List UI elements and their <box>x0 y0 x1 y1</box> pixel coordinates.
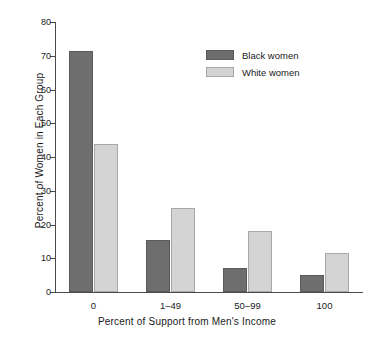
x-axis-tick-label: 50–99 <box>234 300 260 311</box>
y-axis-tick-label: 50 <box>41 118 51 128</box>
bar <box>146 240 170 292</box>
x-axis-tick-label: 1–49 <box>160 300 181 311</box>
bar <box>248 231 272 292</box>
legend-swatch <box>206 67 234 77</box>
legend-entry: Black women <box>206 48 300 62</box>
bar <box>325 253 349 292</box>
legend-entry: White women <box>206 65 300 79</box>
y-axis-tick-label: 20 <box>41 220 51 230</box>
x-axis-tick-label: 0 <box>91 300 96 311</box>
chart-legend: Black womenWhite women <box>206 48 300 82</box>
bar <box>300 275 324 292</box>
y-axis-tick-label: 10 <box>41 253 51 263</box>
y-axis-tick-label: 30 <box>41 186 51 196</box>
legend-swatch <box>206 50 234 60</box>
x-axis-tick-label: 100 <box>317 300 333 311</box>
y-axis-tick-label: 70 <box>41 51 51 61</box>
bar <box>171 208 195 292</box>
bar-group <box>55 22 132 292</box>
y-axis-title: Percent of Women in Each Group <box>34 31 45 271</box>
bar <box>223 268 247 292</box>
y-axis-tick-label: 0 <box>46 287 51 297</box>
y-axis-tick-label: 40 <box>41 152 51 162</box>
y-axis-tick-label: 60 <box>41 85 51 95</box>
bar <box>69 51 93 292</box>
y-axis-tick-label: 80 <box>41 17 51 27</box>
x-axis-line <box>55 292 363 293</box>
bar <box>94 144 118 293</box>
x-axis-title: Percent of Support from Men's Income <box>0 316 374 327</box>
legend-label: Black women <box>242 50 299 61</box>
legend-label: White women <box>242 67 300 78</box>
bar-chart-figure: Percent of Women in Each Group 010203040… <box>0 0 374 345</box>
bar-group <box>132 22 209 292</box>
